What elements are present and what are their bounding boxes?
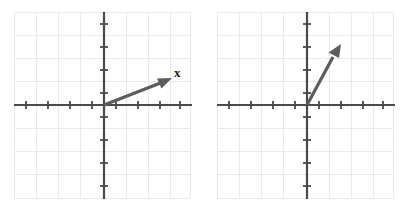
vector-x-label: x [174, 66, 181, 79]
vector-t-of-x-arrow [307, 44, 341, 105]
codomain-plane-panel: T(x) [203, 0, 407, 208]
domain-plane-panel: x [0, 0, 204, 208]
vector-x-arrow [104, 78, 172, 105]
codomain-plane-svg [203, 0, 407, 208]
vector-t-of-x-arrowhead [329, 44, 342, 58]
vector-x-label-vec: x [174, 65, 181, 80]
domain-plane-svg [0, 0, 204, 208]
figure-root: x [0, 0, 407, 208]
